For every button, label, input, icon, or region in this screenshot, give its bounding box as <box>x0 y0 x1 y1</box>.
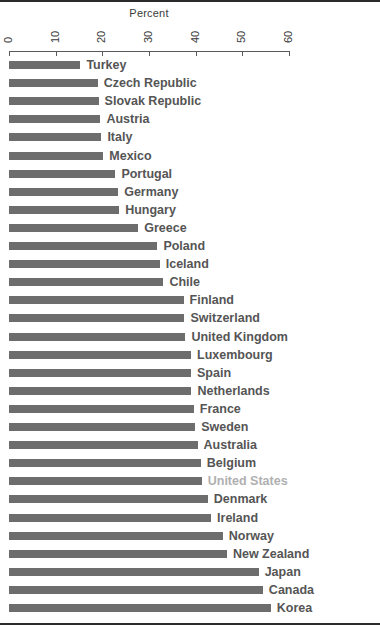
bar-row: Denmark <box>0 491 380 510</box>
bar <box>9 224 138 232</box>
bar-category-label: Italy <box>107 128 132 147</box>
bar <box>9 314 184 322</box>
bar <box>9 133 101 141</box>
bar-row: Korea <box>0 600 380 619</box>
bar-category-label: Poland <box>163 237 205 256</box>
bar-category-label: Japan <box>265 563 301 582</box>
bar-category-label: France <box>200 400 241 419</box>
bar-row: Netherlands <box>0 383 380 402</box>
bar <box>9 278 163 286</box>
x-axis-tick-label: 30 <box>142 31 154 43</box>
bar-category-label: Belgium <box>207 454 256 473</box>
axis-title: Percent <box>9 7 289 19</box>
bar <box>9 477 202 485</box>
bar <box>9 260 160 268</box>
bar-row: Austria <box>0 111 380 130</box>
x-axis-tick-label: 20 <box>95 31 107 43</box>
x-axis-tick-label: 60 <box>282 31 294 43</box>
bar-row: Mexico <box>0 148 380 167</box>
bar-category-label: Switzerland <box>190 309 259 328</box>
bar-category-label: United States <box>208 472 288 491</box>
chart-figure: Percent 0102030405060 TurkeyCzech Republ… <box>0 0 380 625</box>
bar <box>9 351 191 359</box>
bar <box>9 568 259 576</box>
bar <box>9 333 185 341</box>
bar-category-label: Korea <box>277 599 312 618</box>
bar-category-label: Mexico <box>109 147 151 166</box>
bar <box>9 550 227 558</box>
bar-category-label: Portugal <box>121 165 172 184</box>
bar-category-label: Greece <box>144 219 186 238</box>
bar-category-label: Chile <box>169 273 200 292</box>
bar <box>9 97 99 105</box>
bar <box>9 61 80 69</box>
bar-category-label: Slovak Republic <box>105 92 202 111</box>
bar-row: Germany <box>0 184 380 203</box>
bar-category-label: New Zealand <box>233 545 309 564</box>
bar-category-label: Netherlands <box>197 382 269 401</box>
x-axis-tick-label: 10 <box>49 31 61 43</box>
bar-row: Luxembourg <box>0 347 380 366</box>
bar-row: New Zealand <box>0 546 380 565</box>
bar <box>9 296 184 304</box>
bar <box>9 188 118 196</box>
bar-row: Canada <box>0 582 380 601</box>
bar-category-label: Finland <box>190 291 234 310</box>
bar-row: United States <box>0 473 380 492</box>
bar <box>9 387 191 395</box>
bar <box>9 532 223 540</box>
bar-row: Ireland <box>0 510 380 529</box>
bar <box>9 170 115 178</box>
bar <box>9 586 263 594</box>
bar-category-label: Sweden <box>201 418 248 437</box>
bar-category-label: Hungary <box>125 201 176 220</box>
bar <box>9 441 198 449</box>
bar <box>9 152 103 160</box>
bar-category-label: Austria <box>106 110 149 129</box>
bar <box>9 514 211 522</box>
bar <box>9 405 194 413</box>
bar-category-label: Luxembourg <box>197 346 273 365</box>
bar <box>9 79 98 87</box>
bar-category-label: Canada <box>269 581 314 600</box>
x-axis: 0102030405060 <box>0 21 380 54</box>
bar-row: Portugal <box>0 166 380 185</box>
bar <box>9 206 119 214</box>
x-axis-tick-label: 0 <box>2 37 14 43</box>
bar-category-label: Australia <box>204 436 258 455</box>
bar <box>9 495 208 503</box>
bar-row: Belgium <box>0 455 380 474</box>
bar <box>9 115 100 123</box>
bar-row: Spain <box>0 365 380 384</box>
bar-row: Switzerland <box>0 310 380 329</box>
bar <box>9 423 195 431</box>
x-axis-tick-label: 50 <box>235 31 247 43</box>
bar-category-label: Turkey <box>86 56 126 75</box>
bar-category-label: Iceland <box>166 255 209 274</box>
bar-row: Norway <box>0 528 380 547</box>
bar-category-label: Ireland <box>217 509 258 528</box>
bar <box>9 604 271 612</box>
bar <box>9 459 201 467</box>
bar-category-label: Czech Republic <box>104 74 197 93</box>
bar-row: Slovak Republic <box>0 93 380 112</box>
bar-row: United Kingdom <box>0 329 380 348</box>
bar-category-label: Norway <box>229 527 274 546</box>
bar <box>9 369 191 377</box>
bar-category-label: Germany <box>124 183 178 202</box>
bar-row: Hungary <box>0 202 380 221</box>
bar-row: France <box>0 401 380 420</box>
bar-row: Australia <box>0 437 380 456</box>
x-axis-tick-label: 40 <box>189 31 201 43</box>
bar-category-label: Denmark <box>214 490 268 509</box>
bar-category-label: United Kingdom <box>191 328 288 347</box>
bar-row: Sweden <box>0 419 380 438</box>
bar-row: Japan <box>0 564 380 583</box>
bar-category-label: Spain <box>197 364 231 383</box>
bar-row: Italy <box>0 129 380 148</box>
bar <box>9 242 157 250</box>
bars-plot-area: TurkeyCzech RepublicSlovak RepublicAustr… <box>0 54 380 619</box>
